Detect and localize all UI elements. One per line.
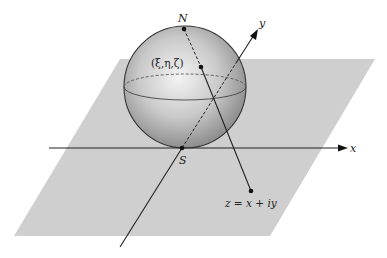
- stereographic-diagram: N S (ξ,η,ζ) x y z = x + iy: [0, 0, 387, 258]
- plane-point: [249, 189, 254, 194]
- y-axis-label: y: [258, 17, 266, 30]
- north-pole-point: [182, 27, 187, 32]
- south-pole-label: S: [179, 154, 187, 167]
- north-pole-label: N: [177, 12, 188, 25]
- sphere-point-label: (ξ,η,ζ): [151, 57, 184, 69]
- riemann-sphere: [124, 26, 246, 148]
- y-axis-upper: [236, 35, 254, 63]
- x-axis-arrow-icon: [338, 145, 348, 152]
- south-pole-point: [180, 146, 185, 151]
- x-axis-label: x: [350, 142, 357, 155]
- sphere-point: [199, 65, 204, 70]
- plane-point-label: z = x + iy: [224, 197, 278, 209]
